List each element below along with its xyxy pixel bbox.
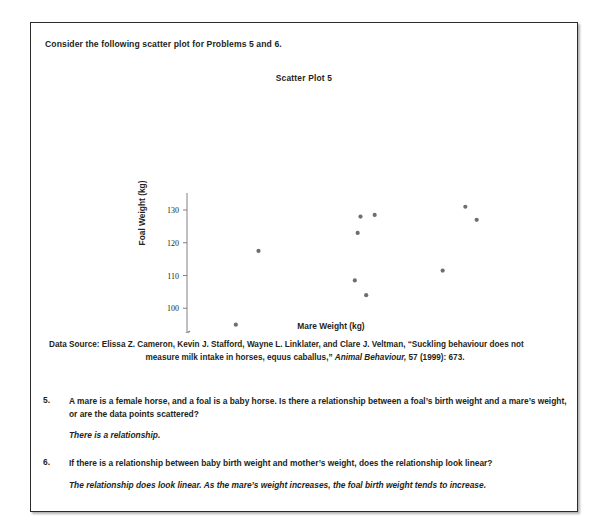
problem-6-number: 6. [43,457,69,467]
problem-6-answer: The relationship does look linear. As th… [69,479,567,492]
problem-5-question: A mare is a female horse, and a foal is … [69,395,567,420]
problem-6-question: If there is a relationship between baby … [69,457,567,470]
plot-axes: 0901001101201300500510520530540550560570… [167,193,511,333]
data-point [463,205,467,209]
data-point [256,249,260,253]
problem-5-number: 5. [43,395,69,405]
problem-6: 6. If there is a relationship between ba… [43,457,567,491]
scatter-plot-figure: Scatter Plot 5 0901001101201300500510520… [31,73,577,333]
source-line-2b: 57 (1999): 673. [406,353,464,362]
source-journal-name: Animal Behaviour, [335,353,406,362]
source-line-1: Data Source: Elissa Z. Cameron, Kevin J.… [49,340,524,349]
data-point [373,213,377,217]
intro-instruction: Consider the following scatter plot for … [45,39,282,49]
worksheet-page: Consider the following scatter plot for … [30,22,578,512]
x-axis-title: Mare Weight (kg) [297,321,365,331]
y-tick-label: 110 [167,272,179,281]
data-point [475,218,479,222]
data-point [358,214,362,218]
y-axis-title: Foal Weight (kg) [137,180,147,245]
problem-5-answer: There is a relationship. [69,429,567,442]
y-tick-label: 130 [167,206,179,215]
data-point [364,293,368,297]
data-point [441,268,445,272]
data-point [353,278,357,282]
source-line-2a: measure milk intake in horses, equus cab… [146,353,335,362]
y-tick-label: 120 [167,239,179,248]
data-source-citation: Data Source: Elissa Z. Cameron, Kevin J.… [49,339,561,364]
problem-5: 5. A mare is a female horse, and a foal … [43,395,567,442]
plot-data-points [234,205,479,327]
data-point [234,323,238,327]
scatter-plot-svg: 0901001101201300500510520530540550560570… [31,73,577,333]
data-point [356,231,360,235]
y-tick-label: 100 [167,304,179,313]
